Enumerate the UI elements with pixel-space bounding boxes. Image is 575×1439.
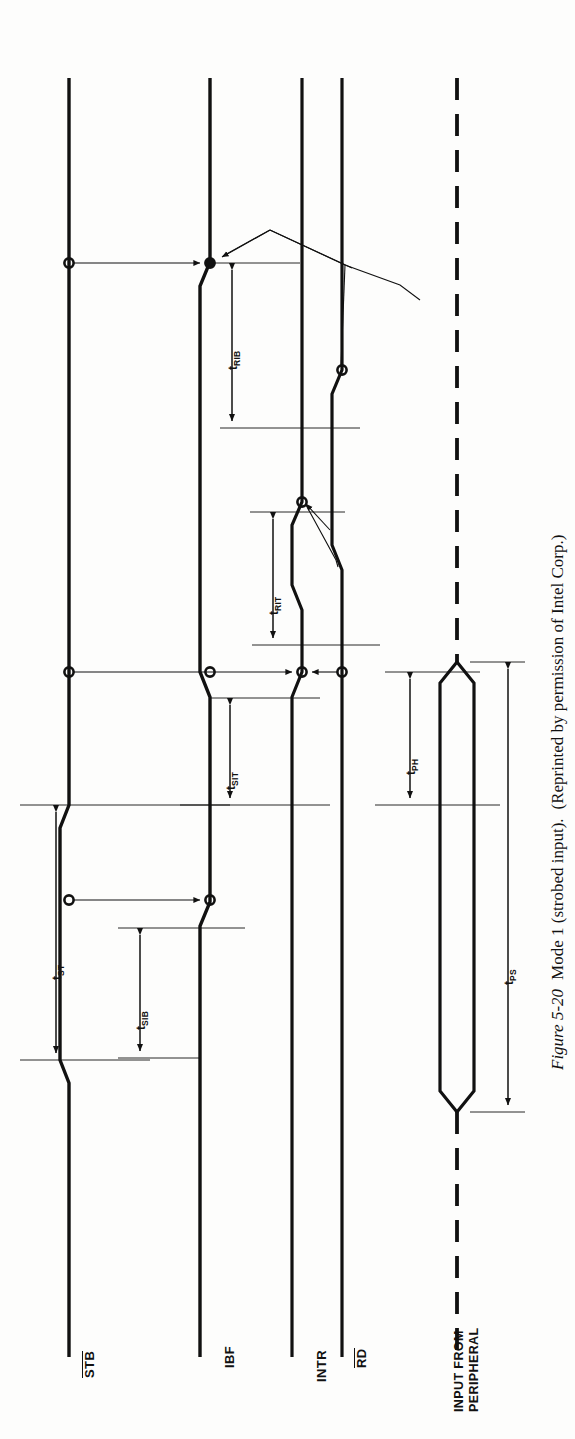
- figure-credit: (Reprinted by permission of Intel Corp.): [548, 535, 567, 810]
- timing-diagram-canvas: [0, 0, 575, 1439]
- waveform-input-from-peripheral: [440, 78, 474, 1357]
- figure-title: Mode 1 (strobed input).: [548, 818, 567, 979]
- signal-label-rd: RD: [354, 1348, 370, 1368]
- timing-label-tst: tST: [50, 965, 66, 980]
- signal-label-input-from-peripheral: INPUT FROM PERIPHERAL: [452, 1327, 482, 1412]
- figure-number: Figure 5-20: [548, 989, 567, 1070]
- waveform-rd: [332, 78, 342, 1357]
- event-markers: [64, 258, 346, 904]
- signal-label-stb: STB: [82, 1351, 98, 1378]
- dimension-rules: [20, 263, 525, 1112]
- signal-label-intr: INTR: [314, 1350, 329, 1382]
- causal-connectors: [73, 230, 420, 900]
- waveform-stb: [60, 78, 69, 1357]
- signal-label-ibf: IBF: [222, 1346, 237, 1368]
- timing-label-trit: tRIT: [267, 596, 283, 615]
- figure-caption: Figure 5-20Mode 1 (strobed input).(Repri…: [548, 535, 568, 1070]
- timing-label-trib: tRIB: [226, 350, 242, 370]
- figure-root: STB IBF INTR RD INPUT FROM PERIPHERAL tS…: [0, 0, 575, 1439]
- timing-label-tph: tPH: [404, 759, 420, 775]
- waveform-intr: [292, 78, 302, 1357]
- waveform-ibf: [200, 78, 210, 1357]
- timing-label-tsit: tSIT: [224, 772, 240, 790]
- timing-label-tsib: tSIB: [134, 1011, 150, 1030]
- timing-label-tps: tPS: [502, 969, 518, 985]
